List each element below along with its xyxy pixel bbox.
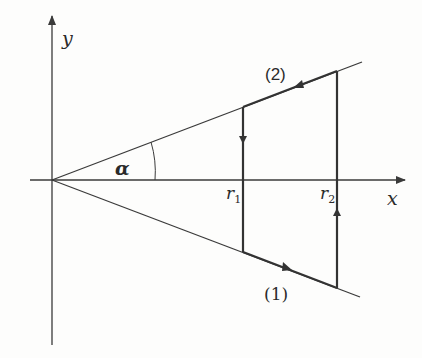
- path-2-label: (2): [265, 65, 286, 84]
- path-1-label: (1): [264, 284, 288, 304]
- arrow-down-icon: [239, 136, 247, 144]
- diagram-canvas: y x α r1 r2 (2) (1): [0, 0, 422, 358]
- arrow-up-icon: [333, 208, 341, 216]
- segment-path-2: [243, 71, 337, 107]
- x-axis-label: x: [387, 187, 398, 209]
- arrow-left-icon: [293, 80, 304, 88]
- y-axis-label: y: [61, 27, 73, 49]
- wedge-diagram: y x α r1 r2 (2) (1): [0, 0, 422, 358]
- r2-label: r2: [320, 183, 335, 206]
- angle-label: α: [115, 157, 130, 179]
- angle-arc: [151, 142, 155, 180]
- arrow-right-icon: [282, 262, 292, 271]
- r1-label: r1: [226, 183, 241, 206]
